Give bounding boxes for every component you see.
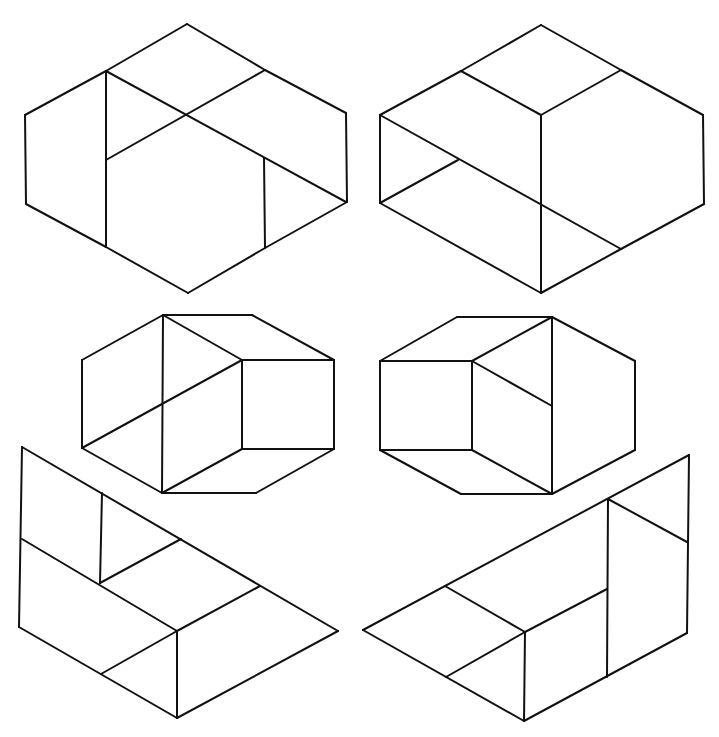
- diagram-canvas: [0, 0, 719, 737]
- background: [0, 0, 719, 737]
- edge-line: [524, 632, 525, 721]
- edge-line: [703, 115, 704, 204]
- edge-line: [607, 499, 608, 677]
- edge-line: [264, 158, 265, 248]
- edge-line: [346, 113, 347, 202]
- tangram-diagram: [0, 0, 719, 737]
- edge-line: [25, 115, 26, 204]
